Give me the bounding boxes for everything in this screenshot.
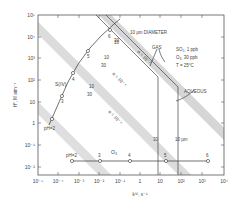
siv-point-ph6 — [108, 28, 111, 31]
y-tick-1e-2: 10⁻² — [25, 164, 36, 170]
siv-point-ph2 — [50, 117, 53, 120]
vline-10um-label: 10 µm — [175, 137, 188, 142]
o3-label-ph3: 3 — [98, 153, 101, 158]
siv-label-ph4: 4 — [72, 77, 75, 82]
x-tick-1e-4: 10⁻⁴ — [53, 178, 64, 184]
y-tick-1e0: 1 — [32, 120, 35, 126]
siv-label-ph6: 6 — [108, 34, 111, 39]
x-tick-1e1: 10 — [157, 178, 163, 184]
y-axis-title: H*, M atm⁻¹ — [13, 82, 18, 107]
x-axis-title: k⁽¹⁾, s⁻¹ — [133, 192, 148, 197]
siv-point-ph3 — [60, 94, 63, 97]
x-tick-1e4: 10⁴ — [220, 178, 228, 184]
y-tick-1e5: 10⁵ — [27, 12, 35, 18]
x-tick-labels: 10⁻⁵ 10⁻⁴ 10⁻³ 10⁻² 10⁻¹ 1 10 10² 10³ 10… — [33, 178, 228, 184]
band-2-ten: 10 — [104, 55, 110, 60]
band-3-ten: 10 — [89, 84, 95, 89]
x-tick-1e-5: 10⁻⁵ — [33, 178, 44, 184]
y-tick-1e-1: 10⁻¹ — [25, 142, 36, 148]
x-tick-1e3: 10³ — [198, 178, 206, 184]
x-tick-1e0: 1 — [139, 178, 142, 184]
o3-label: O₃ — [111, 149, 117, 155]
siv-point-ph5 — [86, 49, 89, 52]
o3-point-ph2 — [70, 159, 73, 162]
diameter-label: 10 µm DIAMETER — [130, 30, 168, 35]
o3-point-ph4 — [128, 159, 131, 162]
siv-label-ph2: pH=2 — [44, 126, 55, 131]
o3-point-ph5 — [164, 159, 167, 162]
siv-point-ph4 — [71, 71, 74, 74]
aqueous-label: AQUEOUS — [184, 89, 207, 94]
band-3-thirty: 30 — [87, 92, 93, 97]
x-tick-1e-3: 10⁻³ — [74, 178, 85, 184]
siv-label-ph3: 3 — [61, 99, 64, 104]
siv-label-ph5: 5 — [87, 54, 90, 59]
chart: 10⁵ 10⁴ 10³ 10² 10 1 10⁻¹ 10⁻² 10⁻⁵ 10⁻⁴… — [0, 0, 239, 209]
o3-point-ph6 — [206, 159, 209, 162]
y-tick-labels: 10⁵ 10⁴ 10³ 10² 10 1 10⁻¹ 10⁻² — [25, 12, 36, 170]
conditions-legend: SO₂, 1 ppb O₃, 30 ppb T = 25°C — [176, 47, 199, 68]
band-label-alpha-1e-4: α = 10⁻⁴ — [111, 71, 127, 87]
y-tick-1e1: 10 — [29, 99, 35, 105]
x-tick-1e2: 10² — [177, 178, 185, 184]
o3-label-ph6: 6 — [206, 153, 209, 158]
y-tick-1e4: 10⁴ — [27, 34, 35, 40]
y-tick-1e2: 10² — [28, 77, 36, 83]
o3-label-ph2: pH=2 — [66, 153, 77, 158]
legend-so2: SO₂, 1 ppb — [176, 47, 199, 52]
band-0-thirty: 30 — [114, 38, 120, 43]
gas-label: GAS — [152, 45, 162, 50]
vline-30-label: 30 — [153, 137, 159, 142]
siv-label: S(IV) — [55, 81, 67, 87]
x-tick-1e-2: 10⁻² — [94, 178, 105, 184]
legend-temp: T = 25°C — [176, 63, 195, 68]
x-tick-1e-1: 10⁻¹ — [115, 178, 126, 184]
o3-point-ph3 — [98, 159, 101, 162]
y-tick-1e3: 10³ — [28, 55, 36, 61]
o3-label-ph4: 4 — [128, 153, 131, 158]
legend-o3: O₃, 30 ppb — [176, 55, 198, 60]
band-2-thirty: 30 — [101, 63, 107, 68]
gas-pointer-2 — [159, 49, 165, 62]
